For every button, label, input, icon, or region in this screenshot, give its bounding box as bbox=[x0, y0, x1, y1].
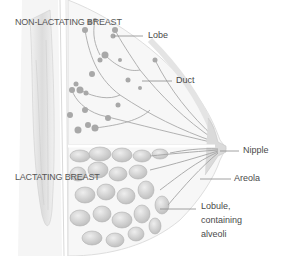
label-duct: Duct bbox=[176, 75, 195, 86]
label-lobule-line-1: Lobule, bbox=[201, 199, 261, 213]
non-lactating-heading: NON-LACTATING BREAST bbox=[15, 17, 122, 28]
label-lobe: Lobe bbox=[148, 30, 168, 41]
label-areola: Areola bbox=[234, 173, 260, 184]
lactating-heading: LACTATING BREAST bbox=[15, 172, 99, 183]
chest-wall-muscle bbox=[18, 0, 68, 256]
label-lobule-line-3: alveoli bbox=[201, 227, 261, 241]
label-lobule-line-2: containing bbox=[201, 213, 261, 227]
breast-anatomy-diagram: NON-LACTATING BREAST LACTATING BREAST Lo… bbox=[0, 0, 281, 256]
label-lobule: Lobule, containing alveoli bbox=[201, 199, 261, 241]
label-nipple: Nipple bbox=[243, 145, 269, 156]
